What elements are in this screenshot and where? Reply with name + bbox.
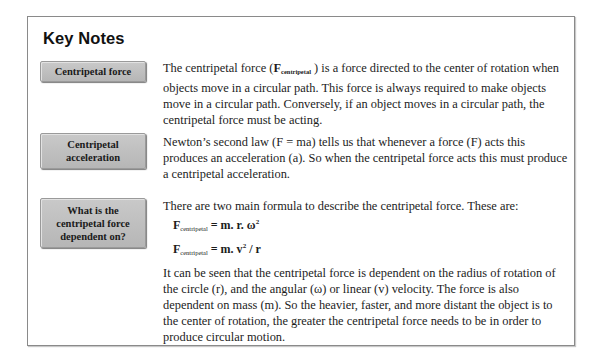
page-title: Key Notes bbox=[43, 29, 125, 48]
formula-linear: Fcentripetal = m. v2 / r bbox=[173, 242, 568, 260]
note-centripetal-force: The centripetal force (Fcentripetal ) is… bbox=[163, 60, 568, 128]
label-dependent-on: What is the centripetal force dependent … bbox=[40, 198, 146, 248]
conclusion-paragraph: It can be seen that the centripetal forc… bbox=[163, 265, 568, 345]
force-symbol: Fcentripetal bbox=[273, 61, 311, 75]
label-text: Centripetal acceleration bbox=[45, 138, 141, 164]
formula-angular: Fcentripetal = m. r. ω2 bbox=[173, 218, 568, 236]
intro-paragraph: There are two main formula to describe t… bbox=[163, 198, 568, 214]
note-centripetal-acceleration: Newton’s second law (F = ma) tells us th… bbox=[163, 134, 568, 182]
paragraph: Newton’s second law (F = ma) tells us th… bbox=[163, 134, 568, 182]
label-centripetal-acceleration: Centripetal acceleration bbox=[40, 133, 146, 169]
note-dependent-on: There are two main formula to describe t… bbox=[163, 198, 568, 345]
label-centripetal-force: Centripetal force bbox=[40, 61, 146, 82]
paragraph: The centripetal force (Fcentripetal ) is… bbox=[163, 60, 568, 128]
label-text: Centripetal force bbox=[55, 65, 131, 78]
label-text: What is the centripetal force dependent … bbox=[45, 204, 141, 243]
